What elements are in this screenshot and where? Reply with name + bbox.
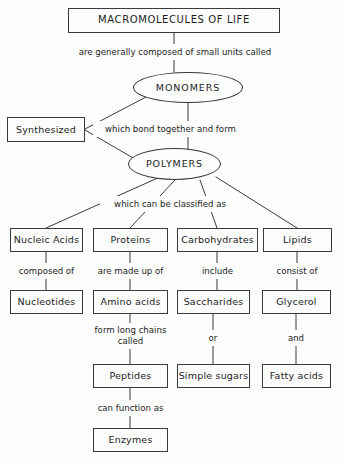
node-label: Nucleotides [17, 297, 75, 307]
node-label: Glycerol [276, 297, 316, 307]
edge-label-classified-as: which can be classified as [100, 196, 240, 212]
node-synthesized[interactable]: Synthesized [7, 117, 85, 142]
node-label: Fatty acids [270, 371, 323, 381]
edge-label-form-long-chains: form long chains called [84, 323, 177, 349]
node-enzymes[interactable]: Enzymes [93, 428, 168, 452]
node-label: Simple sugars [179, 371, 249, 381]
node-nucleic-acids[interactable]: Nucleic Acids [10, 228, 83, 252]
edge-label-composed-small-units: are generally composed of small units ca… [60, 44, 290, 60]
node-label: Synthesized [16, 125, 76, 135]
node-label: Peptides [109, 371, 151, 381]
node-amino-acids[interactable]: Amino acids [93, 290, 168, 314]
edge-label-consist-of: consist of [266, 263, 328, 279]
node-carbohydrates[interactable]: Carbohydrates [177, 228, 258, 252]
node-label: MACROMOLECULES OF LIFE [98, 15, 250, 26]
node-label: Amino acids [100, 297, 160, 307]
node-label: Carbohydrates [181, 235, 254, 245]
edge-label-include: include [185, 263, 250, 279]
node-saccharides[interactable]: Saccharides [177, 290, 250, 314]
edge-label-bond-together: which bond together and form [93, 121, 248, 137]
node-label: Lipids [283, 235, 312, 245]
node-nucleotides[interactable]: Nucleotides [10, 290, 83, 314]
edge-label-text: or [209, 333, 218, 344]
node-label: MONOMERS [156, 83, 220, 93]
edge-label-can-function-as: can function as [87, 400, 174, 416]
node-polymers[interactable]: POLYMERS [128, 148, 221, 180]
node-macromolecules-of-life[interactable]: MACROMOLECULES OF LIFE [68, 8, 280, 33]
edge-label-text: can function as [98, 403, 164, 414]
edge-label-made-up-of: are made up of [90, 263, 171, 279]
edge-label-composed-of: composed of [10, 263, 83, 279]
edge-label-text: which bond together and form [105, 124, 236, 135]
node-label: Enzymes [108, 435, 152, 445]
edge-label-text: include [202, 266, 233, 277]
edge-label-text: are generally composed of small units ca… [79, 47, 272, 58]
node-glycerol[interactable]: Glycerol [262, 290, 331, 314]
node-label: Nucleic Acids [14, 235, 80, 245]
node-simple-sugars[interactable]: Simple sugars [177, 364, 250, 388]
concept-map-canvas: MACROMOLECULES OF LIFE MONOMERS POLYMERS… [0, 0, 345, 460]
edge-label-text: composed of [19, 266, 74, 277]
edge-label-text: consist of [276, 266, 317, 277]
node-label: Proteins [111, 235, 151, 245]
node-peptides[interactable]: Peptides [93, 364, 168, 388]
node-lipids[interactable]: Lipids [263, 228, 332, 252]
node-fatty-acids[interactable]: Fatty acids [262, 364, 331, 388]
node-label: Saccharides [184, 297, 244, 307]
edge-label-and: and [281, 330, 311, 346]
edge-label-text: form long chains called [86, 325, 175, 346]
edge-label-text: are made up of [98, 266, 164, 277]
edge-label-text: which can be classified as [114, 199, 226, 210]
edge-label-or: or [198, 330, 228, 346]
node-proteins[interactable]: Proteins [93, 228, 168, 252]
node-label: POLYMERS [146, 159, 203, 169]
edge-label-text: and [288, 333, 304, 344]
node-monomers[interactable]: MONOMERS [133, 72, 243, 103]
